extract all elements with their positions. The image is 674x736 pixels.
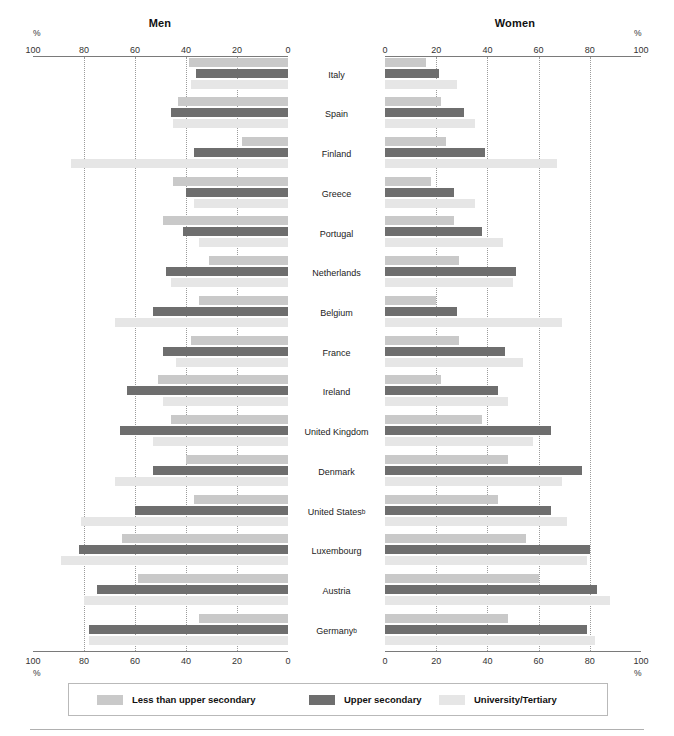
axis-tick-men-bottom-80: 80 xyxy=(71,656,97,666)
bar-row xyxy=(33,175,288,212)
axis-tick-men-top-80: 80 xyxy=(71,45,97,55)
bar-women-united-kingdom-upper-secondary xyxy=(385,426,551,435)
bar-women-denmark-university-tertiary xyxy=(385,477,562,486)
bar-row xyxy=(33,374,288,411)
category-label-austria: Austria xyxy=(288,573,385,610)
category-label-italy: Italy xyxy=(288,56,385,93)
legend-item-less-than-upper-secondary[interactable]: Less than upper secondary xyxy=(97,684,256,715)
bar-men-united-states-less-than-upper-secondary xyxy=(194,495,288,504)
bar-row xyxy=(33,96,288,133)
bar-men-italy-less-than-upper-secondary xyxy=(189,58,288,67)
bar-women-italy-upper-secondary xyxy=(385,69,439,78)
bar-men-united-kingdom-university-tertiary xyxy=(153,437,288,446)
bar-row xyxy=(385,334,641,371)
bar-row xyxy=(33,414,288,451)
chart-legend: Less than upper secondaryUpper secondary… xyxy=(68,683,608,716)
bar-men-italy-upper-secondary xyxy=(196,69,288,78)
bar-row xyxy=(33,533,288,570)
bar-men-austria-less-than-upper-secondary xyxy=(138,574,288,583)
bar-men-denmark-upper-secondary xyxy=(153,466,288,475)
bar-row xyxy=(33,453,288,490)
bar-women-belgium-less-than-upper-secondary xyxy=(385,296,436,305)
bar-men-belgium-university-tertiary xyxy=(115,318,288,327)
bar-men-austria-upper-secondary xyxy=(97,585,288,594)
bar-women-france-less-than-upper-secondary xyxy=(385,336,459,345)
bar-women-austria-upper-secondary xyxy=(385,585,597,594)
bar-row xyxy=(385,414,641,451)
bar-women-spain-university-tertiary xyxy=(385,119,475,128)
footer-divider xyxy=(30,729,644,730)
axis-tick-men-bottom-20: 20 xyxy=(224,656,250,666)
bar-women-greece-upper-secondary xyxy=(385,188,454,197)
bar-women-belgium-upper-secondary xyxy=(385,307,457,316)
category-label-united-kingdom: United Kingdom xyxy=(288,414,385,451)
category-label-luxembourg: Luxembourg xyxy=(288,533,385,570)
bar-women-netherlands-less-than-upper-secondary xyxy=(385,256,459,265)
bar-women-netherlands-university-tertiary xyxy=(385,278,513,287)
axis-tick-men-bottom-0: 0 xyxy=(275,656,301,666)
bar-women-germany-upper-secondary xyxy=(385,625,587,634)
bar-women-greece-university-tertiary xyxy=(385,199,475,208)
bar-row xyxy=(385,374,641,411)
bar-women-austria-university-tertiary xyxy=(385,596,610,605)
bar-men-belgium-less-than-upper-secondary xyxy=(199,296,288,305)
bar-men-germany-less-than-upper-secondary xyxy=(199,614,288,623)
bar-men-greece-upper-secondary xyxy=(186,188,288,197)
category-label-greece: Greece xyxy=(288,175,385,212)
category-label-united-states: United Statesb xyxy=(288,493,385,530)
bar-row xyxy=(385,453,641,490)
bar-women-united-states-university-tertiary xyxy=(385,517,567,526)
bar-row xyxy=(33,493,288,530)
axis-tick-women-bottom-60: 60 xyxy=(526,656,552,666)
bar-men-portugal-upper-secondary xyxy=(183,227,288,236)
bar-women-ireland-upper-secondary xyxy=(385,386,498,395)
category-label-france: France xyxy=(288,334,385,371)
bar-women-finland-upper-secondary xyxy=(385,148,485,157)
category-label-netherlands: Netherlands xyxy=(288,255,385,292)
bar-men-ireland-less-than-upper-secondary xyxy=(158,375,288,384)
legend-label: University/Tertiary xyxy=(474,694,557,705)
bar-row xyxy=(33,612,288,649)
bar-men-finland-less-than-upper-secondary xyxy=(242,137,288,146)
percent-symbol-women-top: % xyxy=(634,28,642,38)
bar-women-netherlands-upper-secondary xyxy=(385,267,516,276)
bar-men-netherlands-university-tertiary xyxy=(171,278,288,287)
panel-title-women: Women xyxy=(450,17,580,29)
axis-tick-women-top-40: 40 xyxy=(474,45,500,55)
legend-item-upper-secondary[interactable]: Upper secondary xyxy=(309,684,422,715)
bar-women-united-states-upper-secondary xyxy=(385,506,551,515)
bar-women-spain-less-than-upper-secondary xyxy=(385,97,441,106)
bar-men-ireland-university-tertiary xyxy=(163,397,288,406)
bar-women-luxembourg-university-tertiary xyxy=(385,556,587,565)
legend-swatch-icon xyxy=(439,695,465,705)
bar-row xyxy=(385,573,641,610)
axis-tick-men-top-20: 20 xyxy=(224,45,250,55)
bar-women-france-upper-secondary xyxy=(385,347,505,356)
percent-symbol-women-bottom: % xyxy=(634,668,642,678)
bar-men-portugal-university-tertiary xyxy=(199,238,288,247)
bar-women-portugal-less-than-upper-secondary xyxy=(385,216,454,225)
bar-men-denmark-university-tertiary xyxy=(115,477,288,486)
bar-men-luxembourg-less-than-upper-secondary xyxy=(122,534,288,543)
plot-area-men xyxy=(33,56,288,652)
bar-men-spain-upper-secondary xyxy=(171,108,288,117)
bar-men-france-upper-secondary xyxy=(163,347,288,356)
bar-row xyxy=(33,56,288,93)
category-label-portugal: Portugal xyxy=(288,215,385,252)
bar-women-denmark-less-than-upper-secondary xyxy=(385,455,508,464)
bar-row xyxy=(33,573,288,610)
percent-symbol-men-bottom: % xyxy=(33,668,41,678)
bar-men-luxembourg-university-tertiary xyxy=(61,556,288,565)
bar-row xyxy=(33,135,288,172)
bar-men-united-kingdom-upper-secondary xyxy=(120,426,288,435)
bar-women-ireland-university-tertiary xyxy=(385,397,508,406)
bar-row xyxy=(385,215,641,252)
axis-tick-men-bottom-100: 100 xyxy=(20,656,46,666)
axis-tick-women-top-20: 20 xyxy=(423,45,449,55)
bar-men-spain-university-tertiary xyxy=(173,119,288,128)
bar-men-denmark-less-than-upper-secondary xyxy=(186,455,288,464)
bar-men-finland-university-tertiary xyxy=(71,159,288,168)
bar-men-united-states-university-tertiary xyxy=(81,517,288,526)
legend-item-university-tertiary[interactable]: University/Tertiary xyxy=(439,684,557,715)
bar-women-greece-less-than-upper-secondary xyxy=(385,177,431,186)
